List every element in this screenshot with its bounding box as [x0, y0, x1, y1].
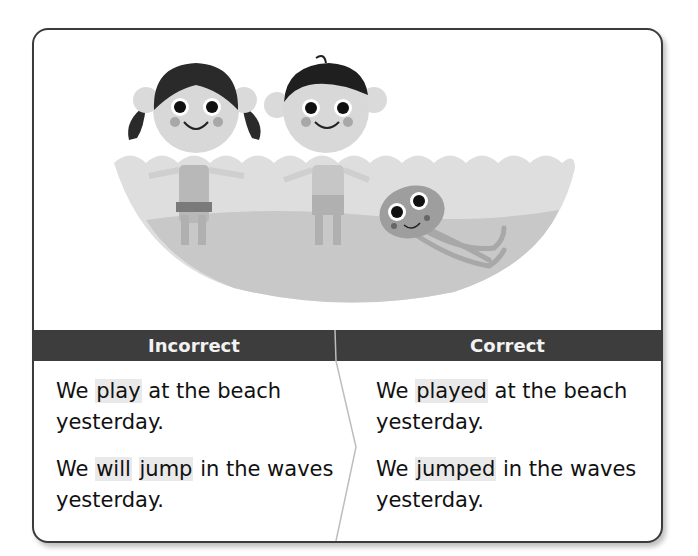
correct-sentence-1: We played at the beach yesterday. — [376, 376, 646, 438]
incorrect-column: We play at the beach yesterday. We will … — [56, 376, 346, 532]
correct-header: Correct — [354, 330, 661, 361]
correct-sentence-2: We jumped in the waves yesterday. — [376, 454, 646, 516]
correct-column: We played at the beach yesterday. We jum… — [376, 376, 646, 532]
highlighted-verb: jumped — [415, 457, 496, 481]
highlighted-verb: played — [415, 379, 488, 403]
incorrect-sentence-2: We will jump in the waves yesterday. — [56, 454, 346, 516]
grammar-card: Incorrect Correct We play at the beach y… — [32, 28, 663, 543]
highlighted-verb: will — [95, 457, 132, 481]
beach-illustration — [34, 30, 661, 330]
comparison-header: Incorrect Correct — [34, 330, 661, 361]
highlighted-verb: play — [95, 379, 141, 403]
incorrect-sentence-1: We play at the beach yesterday. — [56, 376, 346, 438]
highlighted-verb: jump — [139, 457, 194, 481]
incorrect-header: Incorrect — [34, 330, 354, 361]
